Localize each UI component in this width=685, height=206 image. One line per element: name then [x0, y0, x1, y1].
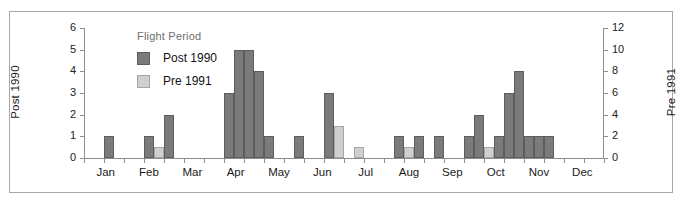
bar	[434, 136, 444, 158]
x-tick	[504, 159, 505, 163]
x-tick	[524, 159, 525, 163]
right-tick-label: 0	[612, 151, 634, 163]
x-axis-label-dec: Dec	[559, 166, 605, 178]
bar	[264, 136, 274, 158]
x-tick	[324, 159, 325, 163]
left-tick-label: 3	[54, 86, 76, 98]
right-tick-label: 12	[612, 21, 634, 33]
right-tick-label: 10	[612, 43, 634, 55]
legend-swatch-post-1990	[137, 52, 150, 65]
x-tick	[484, 159, 485, 163]
x-axis-label-nov: Nov	[516, 166, 562, 178]
legend-label-post-1990: Post 1990	[163, 51, 217, 65]
bar	[164, 115, 174, 158]
x-tick	[464, 159, 465, 163]
bar	[404, 147, 414, 158]
right-tick-label: 4	[612, 108, 634, 120]
x-tick	[164, 159, 165, 163]
x-axis-label-may: May	[256, 166, 302, 178]
legend-item-pre-1991: Pre 1991	[137, 74, 217, 88]
right-tick-label: 8	[612, 64, 634, 76]
x-axis-label-apr: Apr	[213, 166, 259, 178]
bar	[514, 71, 524, 158]
right-tick-label: 2	[612, 129, 634, 141]
left-tick-label: 4	[54, 64, 76, 76]
x-tick	[104, 159, 105, 163]
left-tick-label: 0	[54, 151, 76, 163]
bar	[494, 136, 504, 158]
bar	[254, 71, 264, 158]
x-tick	[224, 159, 225, 163]
legend-label-pre-1991: Pre 1991	[163, 74, 212, 88]
legend-swatch-pre-1991	[137, 75, 150, 88]
left-axis-title: Post 1990	[9, 57, 21, 127]
bar	[504, 93, 514, 158]
bar	[104, 136, 114, 158]
bar	[354, 147, 364, 158]
bar	[154, 147, 164, 158]
bar	[474, 115, 484, 158]
x-tick	[84, 159, 85, 163]
legend-item-post-1990: Post 1990	[137, 51, 217, 65]
x-tick	[304, 159, 305, 163]
x-axis-label-aug: Aug	[386, 166, 432, 178]
bar	[234, 50, 244, 158]
left-tick-label: 6	[54, 21, 76, 33]
bar	[294, 136, 304, 158]
right-tick	[604, 28, 608, 29]
bar	[524, 136, 534, 158]
x-tick	[364, 159, 365, 163]
left-tick-label: 1	[54, 129, 76, 141]
x-axis-label-jun: Jun	[299, 166, 345, 178]
x-axis-label-jul: Jul	[343, 166, 389, 178]
x-tick	[144, 159, 145, 163]
left-tick-label: 2	[54, 108, 76, 120]
bar	[224, 93, 234, 158]
bar	[484, 147, 494, 158]
x-tick	[444, 159, 445, 163]
x-tick	[284, 159, 285, 163]
right-axis-title: Pre 1991	[665, 57, 677, 127]
x-tick	[344, 159, 345, 163]
bar	[394, 136, 404, 158]
x-axis-label-mar: Mar	[169, 166, 215, 178]
left-tick-label: 5	[54, 43, 76, 55]
right-tick	[604, 93, 608, 94]
x-tick	[384, 159, 385, 163]
x-tick	[264, 159, 265, 163]
right-tick	[604, 50, 608, 51]
bar	[544, 136, 554, 158]
x-tick	[404, 159, 405, 163]
x-tick	[204, 159, 205, 163]
right-tick	[604, 136, 608, 137]
x-axis-label-jan: Jan	[83, 166, 129, 178]
x-axis-label-oct: Oct	[473, 166, 519, 178]
x-tick	[244, 159, 245, 163]
x-tick	[184, 159, 185, 163]
x-axis-label-sep: Sep	[429, 166, 475, 178]
right-tick-label: 6	[612, 86, 634, 98]
x-tick	[584, 159, 585, 163]
right-tick	[604, 115, 608, 116]
bar	[244, 50, 254, 158]
chart-figure: Post 1990 Pre 1991 0123456 024681012 Jan…	[0, 0, 685, 206]
x-tick	[424, 159, 425, 163]
right-tick	[604, 71, 608, 72]
bar	[324, 93, 334, 158]
bar	[334, 126, 344, 159]
bar	[144, 136, 154, 158]
bar	[534, 136, 544, 158]
x-tick	[124, 159, 125, 163]
x-tick	[564, 159, 565, 163]
bar	[414, 136, 424, 158]
legend: Flight Period Post 1990 Pre 1991	[137, 30, 217, 97]
x-tick	[604, 159, 605, 163]
bar	[464, 136, 474, 158]
x-axis-label-feb: Feb	[126, 166, 172, 178]
legend-title: Flight Period	[137, 30, 217, 42]
x-tick	[544, 159, 545, 163]
